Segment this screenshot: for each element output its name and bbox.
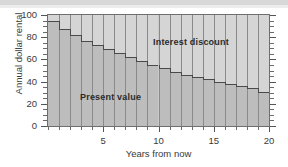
x-tick-minor xyxy=(59,127,60,130)
step-riser xyxy=(147,61,148,65)
step-riser xyxy=(103,45,104,49)
bar-segment-interest-discount xyxy=(92,15,103,45)
vertical-gridline xyxy=(181,15,182,126)
x-tick-minor xyxy=(114,127,115,130)
x-tick-minor xyxy=(247,127,248,130)
bar-segment-present-value xyxy=(48,21,59,126)
x-tick-major xyxy=(214,127,215,132)
step-riser xyxy=(92,41,93,45)
y-tick-minor-right xyxy=(270,76,274,77)
y-tick-minor-right xyxy=(270,65,274,66)
x-tick-minor xyxy=(147,127,148,130)
step-riser xyxy=(170,68,171,71)
vertical-gridline xyxy=(92,15,93,126)
x-tick-minor xyxy=(70,127,71,130)
step-tread xyxy=(114,53,125,54)
bar-segment-interest-discount xyxy=(247,15,258,88)
step-riser xyxy=(114,49,115,52)
y-tick-minor xyxy=(43,43,47,44)
y-tick-major-right xyxy=(270,15,276,16)
scan-band-top-secondary xyxy=(0,5,288,8)
y-tick-minor xyxy=(43,26,47,27)
y-tick-minor xyxy=(43,32,47,33)
step-tread xyxy=(236,86,247,87)
step-riser xyxy=(125,53,126,57)
x-tick-label: 10 xyxy=(149,135,169,146)
y-tick-minor xyxy=(43,48,47,49)
step-tread xyxy=(214,82,225,83)
step-riser xyxy=(59,21,60,30)
x-tick-minor xyxy=(236,127,237,130)
y-tick-major xyxy=(41,37,47,38)
bar-segment-present-value xyxy=(70,35,81,126)
y-tick-minor xyxy=(43,93,47,94)
y-tick-minor-right xyxy=(270,109,274,110)
vertical-gridline xyxy=(147,15,148,126)
x-tick-minor xyxy=(258,127,259,130)
x-tick-minor xyxy=(125,127,126,130)
plot-area: Interest discount Present value xyxy=(47,14,270,127)
vertical-gridline xyxy=(125,15,126,126)
x-tick-minor xyxy=(203,127,204,130)
vertical-gridline xyxy=(136,15,137,126)
y-tick-minor-right xyxy=(270,32,274,33)
y-tick-minor xyxy=(43,109,47,110)
x-tick-minor xyxy=(192,127,193,130)
step-tread xyxy=(225,84,236,85)
y-tick-minor xyxy=(43,98,47,99)
step-tread xyxy=(170,72,181,73)
x-tick-minor xyxy=(181,127,182,130)
bar-segment-present-value xyxy=(236,86,247,126)
y-tick-major xyxy=(41,104,47,105)
bar-segment-present-value xyxy=(159,68,170,126)
x-tick-label: 20 xyxy=(259,135,279,146)
bar-segment-present-value xyxy=(192,77,203,126)
y-tick-major-right xyxy=(270,82,276,83)
step-tread xyxy=(92,45,103,46)
bar-segment-interest-discount xyxy=(59,15,70,29)
step-riser xyxy=(136,57,137,60)
step-tread xyxy=(247,88,258,89)
y-tick-minor xyxy=(43,87,47,88)
y-tick-major xyxy=(41,126,47,127)
step-riser xyxy=(81,35,82,41)
step-riser xyxy=(225,82,226,84)
y-tick-minor-right xyxy=(270,71,274,72)
y-tick-minor-right xyxy=(270,115,274,116)
step-tread xyxy=(159,68,170,69)
step-tread xyxy=(147,65,158,66)
vertical-gridline xyxy=(103,15,104,126)
bar-segment-present-value xyxy=(81,41,92,126)
y-tick-minor-right xyxy=(270,87,274,88)
step-tread xyxy=(258,92,269,93)
bar-segment-interest-discount xyxy=(114,15,125,53)
y-tick-major xyxy=(41,82,47,83)
bar-segment-present-value xyxy=(59,29,70,126)
y-tick-minor-right xyxy=(270,93,274,94)
x-tick-minor xyxy=(170,127,171,130)
step-tread xyxy=(70,35,81,36)
step-tread xyxy=(136,61,147,62)
step-tread xyxy=(192,77,203,78)
vertical-gridline xyxy=(225,15,226,126)
y-axis-title: Annual dollar rental xyxy=(13,0,24,114)
step-tread xyxy=(81,41,92,42)
bar-segment-interest-discount xyxy=(214,15,225,82)
x-tick-minor xyxy=(48,127,49,130)
bar-segment-present-value xyxy=(258,92,269,126)
y-tick-label: 0 xyxy=(13,120,37,131)
bar-segment-present-value xyxy=(147,65,158,126)
bar-segment-interest-discount xyxy=(225,15,236,84)
y-tick-minor-right xyxy=(270,43,274,44)
bar-segment-interest-discount xyxy=(103,15,114,49)
step-tread xyxy=(181,75,192,76)
y-tick-major-right xyxy=(270,59,276,60)
vertical-gridline xyxy=(192,15,193,126)
vertical-gridline xyxy=(258,15,259,126)
y-tick-major xyxy=(41,59,47,60)
step-riser xyxy=(236,84,237,86)
x-tick-minor xyxy=(225,127,226,130)
step-riser xyxy=(192,75,193,77)
y-tick-minor xyxy=(43,21,47,22)
x-axis-title: Years from now xyxy=(47,148,270,159)
